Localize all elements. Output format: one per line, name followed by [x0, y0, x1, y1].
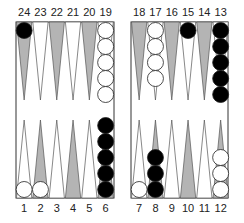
point-label-3: 3 — [49, 202, 65, 214]
black-checker[interactable] — [213, 87, 229, 103]
white-checker[interactable] — [16, 182, 32, 198]
point-label-24: 24 — [16, 6, 32, 18]
black-checker[interactable] — [213, 71, 229, 87]
white-checker[interactable] — [147, 23, 163, 39]
point-label-1: 1 — [16, 202, 32, 214]
black-checker[interactable] — [147, 150, 163, 166]
backgammon-board — [0, 0, 244, 223]
black-checker[interactable] — [98, 134, 114, 150]
point-label-12: 12 — [213, 202, 229, 214]
black-checker[interactable] — [98, 118, 114, 134]
black-checker[interactable] — [147, 182, 163, 198]
point-label-9: 9 — [164, 202, 180, 214]
white-checker[interactable] — [98, 39, 114, 55]
point-label-20: 20 — [81, 6, 97, 18]
point-label-10: 10 — [180, 202, 196, 214]
white-checker[interactable] — [98, 23, 114, 39]
white-checker[interactable] — [213, 182, 229, 198]
point-label-22: 22 — [49, 6, 65, 18]
point-label-18: 18 — [131, 6, 147, 18]
black-checker[interactable] — [147, 166, 163, 182]
point-label-11: 11 — [196, 202, 212, 214]
white-checker[interactable] — [213, 166, 229, 182]
point-label-15: 15 — [180, 6, 196, 18]
point-label-8: 8 — [147, 202, 163, 214]
white-checker[interactable] — [147, 55, 163, 71]
point-label-5: 5 — [81, 202, 97, 214]
white-checker[interactable] — [147, 39, 163, 55]
point-label-19: 19 — [98, 6, 114, 18]
black-checker[interactable] — [98, 166, 114, 182]
point-label-13: 13 — [213, 6, 229, 18]
black-checker[interactable] — [98, 182, 114, 198]
white-checker[interactable] — [98, 55, 114, 71]
black-checker[interactable] — [213, 39, 229, 55]
white-checker[interactable] — [147, 71, 163, 87]
point-label-14: 14 — [196, 6, 212, 18]
white-checker[interactable] — [98, 87, 114, 103]
point-label-17: 17 — [147, 6, 163, 18]
white-checker[interactable] — [213, 150, 229, 166]
black-checker[interactable] — [213, 55, 229, 71]
black-checker[interactable] — [213, 23, 229, 39]
black-checker[interactable] — [16, 23, 32, 39]
point-label-7: 7 — [131, 202, 147, 214]
white-checker[interactable] — [98, 71, 114, 87]
point-label-6: 6 — [98, 202, 114, 214]
point-label-4: 4 — [65, 202, 81, 214]
point-label-2: 2 — [32, 202, 48, 214]
point-label-16: 16 — [164, 6, 180, 18]
black-checker[interactable] — [180, 23, 196, 39]
white-checker[interactable] — [131, 182, 147, 198]
black-checker[interactable] — [98, 150, 114, 166]
point-label-23: 23 — [32, 6, 48, 18]
point-label-21: 21 — [65, 6, 81, 18]
white-checker[interactable] — [32, 182, 48, 198]
